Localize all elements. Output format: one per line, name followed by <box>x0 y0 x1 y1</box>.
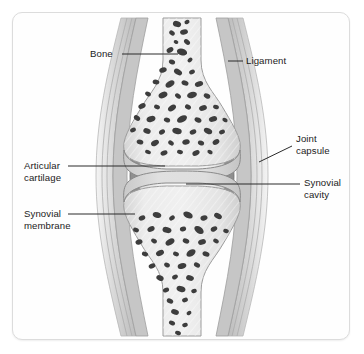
label-ligament: Ligament <box>246 55 286 67</box>
label-bone: Bone <box>90 48 113 60</box>
label-synovial-cavity-line2: cavity <box>304 189 329 201</box>
label-joint-capsule-line1: Joint <box>296 133 317 145</box>
label-synovial-membrane-line2: membrane <box>24 220 71 232</box>
label-articular-cartilage-line1: Articular <box>24 160 60 172</box>
anatomy-figure: Bone Ligament Joint capsule Synovial cav… <box>0 0 364 354</box>
label-synovial-cavity-line1: Synovial <box>304 177 341 189</box>
label-joint-capsule-line2: capsule <box>296 145 330 157</box>
label-synovial-membrane-line1: Synovial <box>24 208 61 220</box>
label-articular-cartilage-line2: cartilage <box>24 172 61 184</box>
